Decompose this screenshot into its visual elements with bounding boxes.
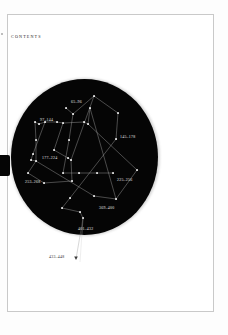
page-range-label: 177–224: [42, 156, 57, 160]
page-range-label: 369–400: [99, 206, 114, 210]
page-range-label: 253–268: [25, 180, 40, 184]
celestial-disc: [8, 77, 160, 237]
page-range-label: 65–96: [71, 100, 82, 104]
page-range-label: 97–144: [40, 118, 53, 122]
page-range-label: 225–256: [117, 178, 132, 182]
page-range-label: 401–432: [78, 227, 93, 231]
book-page: CONTENTS 65–9697–144145–178177–224253–26…: [0, 0, 228, 335]
page-title: CONTENTS: [11, 34, 42, 39]
disc-edge-tab: [0, 155, 10, 176]
page-range-label: 433–448: [49, 255, 64, 259]
disc-body: [11, 79, 158, 235]
page-range-label: 145–178: [120, 135, 135, 139]
margin-speck: [1, 33, 3, 35]
